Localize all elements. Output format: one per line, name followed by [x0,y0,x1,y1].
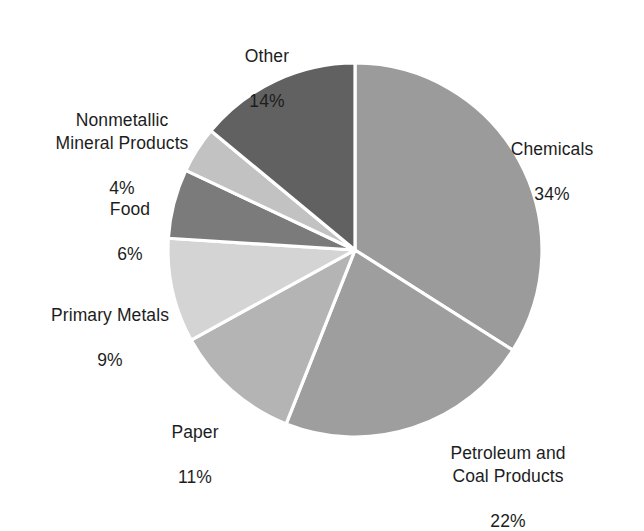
pie-label-chemicals-name: Chemicals [472,138,632,161]
pie-label-primary-metals-name: Primary Metals [10,304,210,327]
pie-label-primary-metals: Primary Metals 9% [10,281,210,395]
pie-label-food: Food 6% [55,175,205,289]
pie-label-primary-metals-value: 9% [10,349,210,372]
pie-label-petroleum-and-coal-products: Petroleum and Coal Products 22% [408,419,608,531]
pie-label-paper: Paper 11% [120,398,270,512]
pie-label-other-name: Other [177,45,357,68]
pie-label-chemicals-value: 34% [472,183,632,206]
pie-label-food-value: 6% [55,243,205,266]
pie-label-nonmetallic-mineral-products-name: Nonmetallic Mineral Products [22,109,222,155]
pie-label-paper-name: Paper [120,421,270,444]
pie-label-food-name: Food [55,198,205,221]
pie-label-chemicals: Chemicals 34% [472,115,632,229]
pie-label-paper-value: 11% [120,466,270,489]
pie-label-petroleum-and-coal-products-value: 22% [408,510,608,531]
pie-label-petroleum-and-coal-products-name: Petroleum and Coal Products [408,442,608,488]
